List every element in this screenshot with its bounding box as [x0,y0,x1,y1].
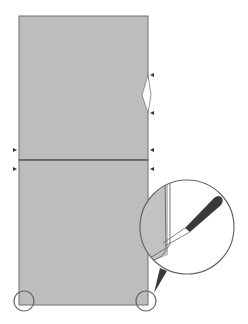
marker-left-seam-above [13,148,17,152]
upper-panel [19,16,148,160]
marker-left-seam-below [13,167,17,171]
marker-right-seam-above [150,148,154,152]
marker-right-seam-below [150,167,154,171]
lower-panel [19,160,148,305]
marker-right-upper-notch-bottom [150,111,154,115]
installation-diagram [0,0,248,324]
inset-pointer [154,268,167,293]
marker-right-upper-notch-top [150,73,154,77]
